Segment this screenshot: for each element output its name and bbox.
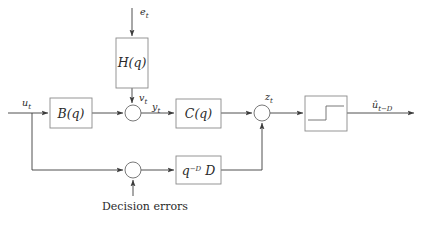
block-H-label: H(q)	[117, 55, 147, 70]
block-diagram-svg: H(q) B(q) C(q) q−D D et ut vt yt	[0, 0, 423, 226]
annotations-group: Decision errors	[102, 200, 188, 213]
block-diagram-canvas: H(q) B(q) C(q) q−D D et ut vt yt	[0, 0, 423, 226]
signal-label-y-t: yt	[151, 101, 160, 115]
delay-base: q	[182, 163, 190, 178]
signal-label-z-t: zt	[264, 91, 273, 105]
signal-label-v-t: vt	[139, 92, 147, 106]
blocks-group: H(q) B(q) C(q) q−D D	[50, 38, 347, 184]
signal-label-u-t: ut	[22, 97, 31, 111]
signal-label-u-hat-t-minus-D: ût−D	[372, 99, 393, 113]
block-C-label: C(q)	[185, 106, 212, 121]
summing-junction-2[interactable]	[254, 105, 270, 121]
decision-errors-label: Decision errors	[102, 200, 188, 213]
wire-D-to-sum2	[221, 123, 262, 170]
summing-junction-3[interactable]	[125, 162, 141, 178]
summing-junction-1[interactable]	[125, 105, 141, 121]
delay-gain: D	[204, 163, 215, 178]
signal-label-e-t: et	[140, 6, 149, 20]
delay-exponent: −D	[190, 165, 202, 173]
block-B-label: B(q)	[57, 106, 85, 121]
